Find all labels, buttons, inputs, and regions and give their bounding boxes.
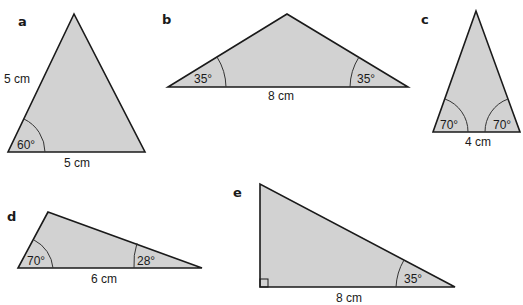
triangle-d-letter: d [7,209,16,224]
triangle-e: e 35° 8 cm [233,184,455,305]
triangle-b-angle-label-left: 35° [194,72,212,86]
triangles-diagram: a 5 cm 5 cm 60° b 35° 35° 8 cm c 70° 70°… [0,0,523,305]
triangle-a-angle-label: 60° [17,138,35,152]
triangle-d: d 70° 28° 6 cm [7,209,202,286]
triangle-c-shape [433,11,520,132]
triangle-d-angle-label-right: 28° [137,254,155,268]
triangle-d-side-label-base: 6 cm [91,272,117,286]
triangle-c: c 70° 70° 4 cm [421,11,520,149]
triangle-d-shape [18,212,202,268]
triangle-a: a 5 cm 5 cm 60° [4,14,145,170]
triangle-e-letter: e [233,185,242,200]
triangle-b-side-label-base: 8 cm [268,89,294,103]
triangle-b-letter: b [162,12,171,27]
triangle-a-letter: a [18,14,27,29]
triangle-a-side-label-left: 5 cm [4,72,30,86]
triangle-a-side-label-base: 5 cm [64,156,90,170]
triangle-c-side-label-base: 4 cm [465,135,491,149]
triangle-e-shape [260,184,455,287]
triangle-b: b 35° 35° 8 cm [162,12,408,103]
triangle-c-angle-label-left: 70° [440,118,458,132]
triangle-d-angle-label-left: 70° [27,254,45,268]
triangle-e-angle-label: 35° [404,272,422,286]
triangle-b-angle-label-right: 35° [357,72,375,86]
triangle-e-side-label-base: 8 cm [336,291,362,305]
triangle-c-angle-label-right: 70° [493,118,511,132]
triangle-c-letter: c [421,12,429,27]
